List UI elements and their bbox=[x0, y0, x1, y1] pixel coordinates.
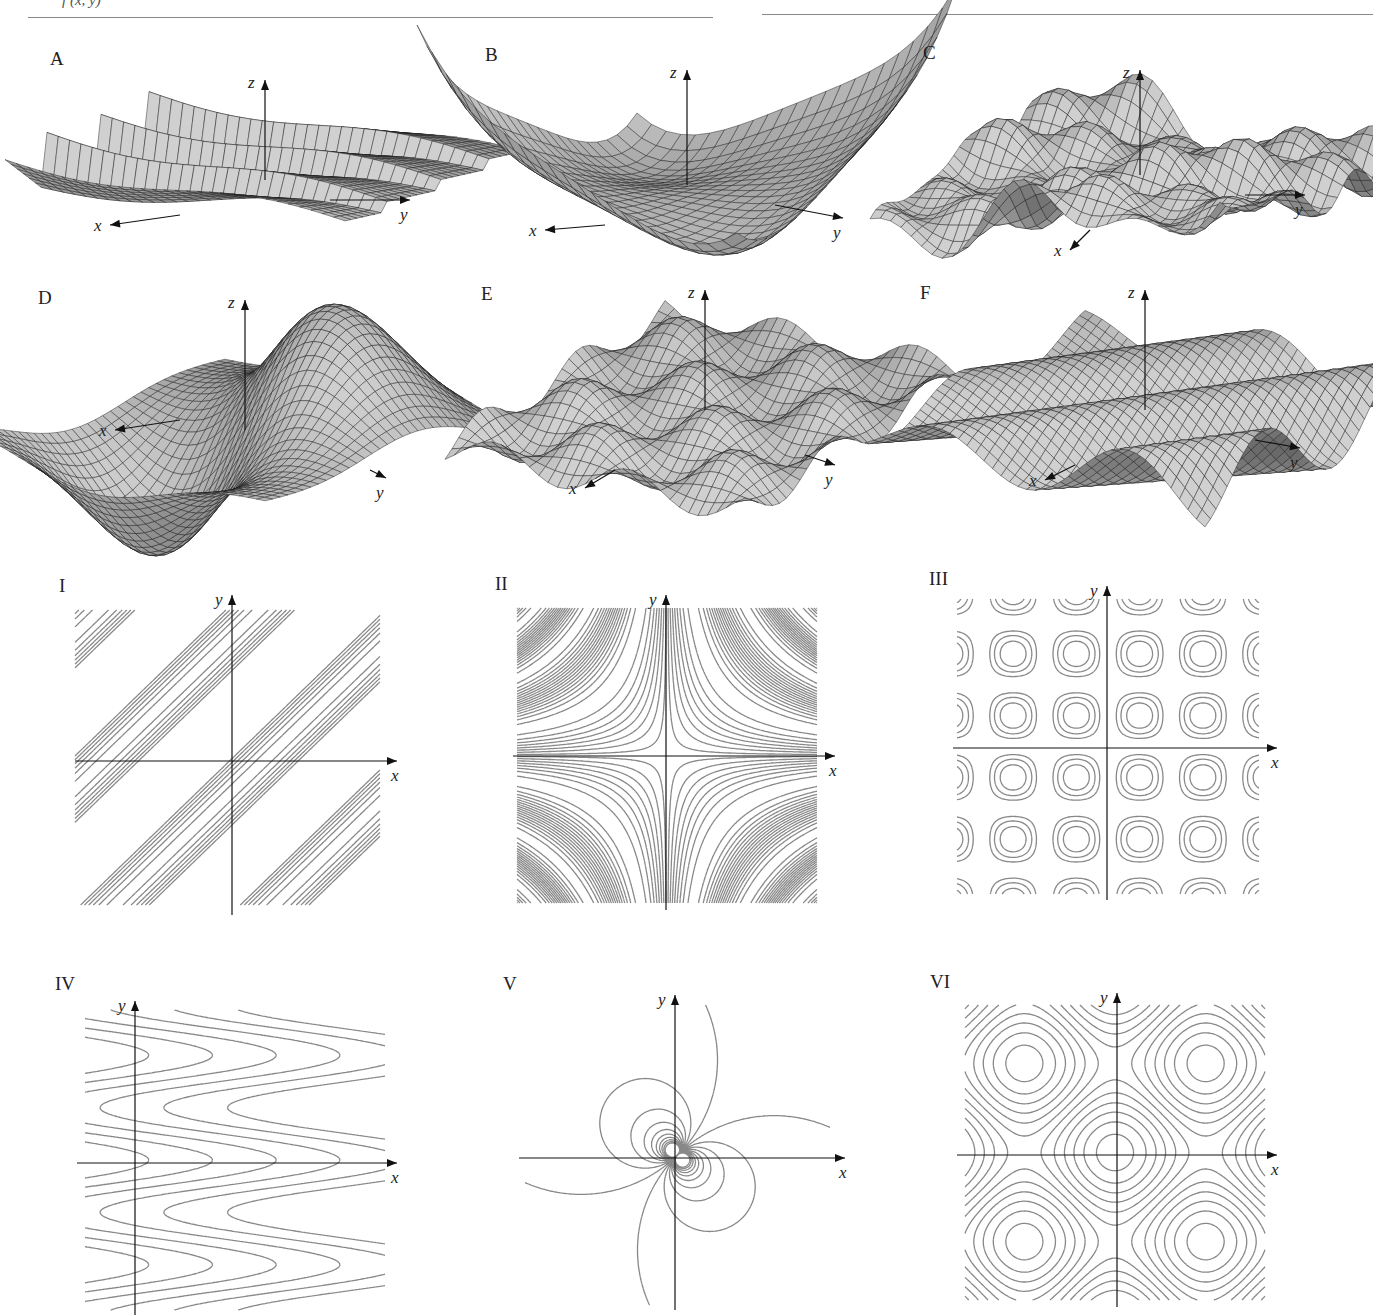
surface-plot-D: zxy bbox=[30, 280, 460, 520]
x-axis-arrow bbox=[545, 225, 605, 233]
x-axis-label: x bbox=[1270, 1160, 1279, 1179]
x-axis-arrow bbox=[1070, 230, 1090, 250]
surface-plot-A: zxy bbox=[30, 40, 460, 280]
y-axis-label: y bbox=[213, 590, 223, 609]
contour-plot-V: xy bbox=[495, 965, 865, 1315]
contour-panel-IV: IV xy bbox=[45, 965, 415, 1315]
contour-lines bbox=[75, 610, 380, 905]
y-axis-arrow bbox=[370, 470, 386, 478]
surface-panel-B: B zxy bbox=[475, 40, 905, 280]
contour-plot-I: xy bbox=[45, 570, 405, 920]
surface-plot-C: zxy bbox=[915, 40, 1355, 280]
contour-lines bbox=[525, 1005, 830, 1305]
x-axis-label: x bbox=[93, 216, 102, 235]
contour-plot-VI: xy bbox=[925, 965, 1295, 1315]
surface-mesh bbox=[870, 74, 1373, 258]
surface-panel-C: C zxy bbox=[915, 40, 1355, 280]
z-axis-label: z bbox=[687, 283, 695, 302]
surface-mesh bbox=[0, 304, 525, 556]
contour-plot-II: xy bbox=[485, 570, 845, 920]
header-rule-right bbox=[762, 14, 1373, 15]
contour-lines bbox=[85, 1010, 385, 1310]
contour-panel-II: II xy bbox=[485, 570, 845, 920]
y-axis-label: y bbox=[1293, 200, 1303, 219]
header-text: f (x, y) bbox=[62, 0, 101, 9]
y-axis-label: y bbox=[374, 483, 384, 502]
x-axis-arrow bbox=[953, 744, 1277, 752]
x-axis-label: x bbox=[838, 1163, 847, 1182]
x-axis-label: x bbox=[568, 479, 577, 498]
header-rule-left bbox=[28, 17, 713, 18]
surface-panel-F: F zxy bbox=[915, 280, 1355, 525]
contour-panel-V: V xy bbox=[495, 965, 865, 1315]
x-axis-label: x bbox=[390, 1168, 399, 1187]
y-axis-label: y bbox=[398, 205, 408, 224]
surface-plot-F: zxy bbox=[915, 280, 1355, 525]
x-axis-label: x bbox=[1053, 241, 1062, 260]
contour-panel-III: III xy bbox=[925, 566, 1285, 916]
surface-panel-D: D zxy bbox=[30, 280, 460, 520]
y-axis-label: y bbox=[1098, 988, 1108, 1007]
y-axis-label: y bbox=[647, 590, 657, 609]
x-axis-label: x bbox=[1028, 471, 1037, 490]
y-axis-label: y bbox=[1088, 581, 1098, 600]
y-axis-label: y bbox=[823, 470, 833, 489]
x-axis-label: x bbox=[528, 221, 537, 240]
x-axis-label: x bbox=[1270, 753, 1279, 772]
z-axis-label: z bbox=[669, 63, 677, 82]
contour-lines bbox=[965, 1005, 1265, 1300]
y-axis-label: y bbox=[116, 996, 126, 1015]
contour-lines bbox=[957, 599, 1259, 894]
y-axis-arrow bbox=[1113, 993, 1121, 1307]
surface-mesh bbox=[865, 311, 1373, 527]
contour-panel-VI: VI xy bbox=[925, 965, 1295, 1315]
surface-panel-E: E zxy bbox=[475, 280, 905, 525]
contour-plot-IV: xy bbox=[45, 965, 415, 1315]
x-axis-label: x bbox=[390, 766, 399, 785]
x-axis-arrow bbox=[77, 1159, 397, 1167]
contour-plot-III: xy bbox=[925, 566, 1285, 916]
x-axis-label: x bbox=[828, 761, 837, 780]
x-axis-label: x bbox=[98, 421, 107, 440]
z-axis-label: z bbox=[227, 293, 235, 312]
y-axis-label: y bbox=[656, 990, 666, 1009]
surface-panel-A: A zxy bbox=[30, 40, 460, 280]
x-axis-arrow bbox=[110, 215, 180, 228]
surface-plot-E: zxy bbox=[475, 280, 905, 525]
y-axis-label: y bbox=[1288, 453, 1298, 472]
z-axis-label: z bbox=[247, 73, 255, 92]
surface-plot-B: zxy bbox=[475, 40, 905, 280]
y-axis-arrow bbox=[1103, 586, 1111, 900]
z-axis-label: z bbox=[1122, 63, 1130, 82]
contour-panel-I: I xy bbox=[45, 570, 405, 920]
y-axis-arrow bbox=[671, 995, 679, 1310]
x-axis-arrow bbox=[519, 1154, 845, 1162]
y-axis-label: y bbox=[831, 223, 841, 242]
z-axis-label: z bbox=[1127, 283, 1135, 302]
